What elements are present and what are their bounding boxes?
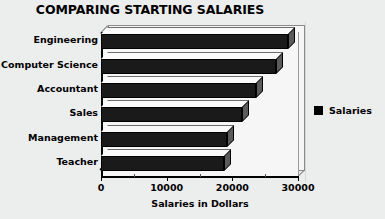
x-axis-title: Salaries in Dollars xyxy=(101,198,299,209)
x-tick-label: 20000 xyxy=(216,182,249,193)
chart-legend: Salaries xyxy=(314,105,372,116)
category-label-computer-science: Computer Science xyxy=(1,60,98,70)
bar-top-face xyxy=(101,100,249,107)
legend-color-swatch xyxy=(314,106,323,115)
bar-accountant xyxy=(101,76,263,98)
x-tick-major xyxy=(101,178,102,181)
x-tick-major xyxy=(232,178,233,181)
bar-front-face xyxy=(101,34,288,49)
bar-top-face xyxy=(101,27,295,34)
bar-chart: COMPARING STARTING SALARIES 010000200003… xyxy=(0,0,385,219)
chart-title: COMPARING STARTING SALARIES xyxy=(0,2,300,17)
bar-management xyxy=(101,125,234,147)
x-tick-minor xyxy=(200,174,201,177)
category-label-accountant: Accountant xyxy=(37,84,98,94)
legend-divider xyxy=(305,22,306,182)
bar-top-face xyxy=(101,149,231,156)
category-label-management: Management xyxy=(28,133,98,143)
legend-entry-label: Salaries xyxy=(329,105,372,116)
bar-top-face xyxy=(101,52,283,59)
x-tick-minor xyxy=(134,174,135,177)
bar-sales xyxy=(101,100,249,122)
x-tick-label: 0 xyxy=(98,182,105,193)
bar-engineering xyxy=(101,27,295,49)
category-label-engineering: Engineering xyxy=(34,35,98,45)
bar-top-face xyxy=(101,125,234,132)
x-tick-label: 30000 xyxy=(281,182,314,193)
x-tick-major xyxy=(167,178,168,181)
bar-front-face xyxy=(101,107,242,122)
category-label-sales: Sales xyxy=(69,108,98,118)
x-tick-major xyxy=(298,178,299,181)
bar-front-face xyxy=(101,83,256,98)
bar-top-face xyxy=(101,76,263,83)
bar-front-face xyxy=(101,156,224,171)
plot-area: 0100002000030000 xyxy=(101,25,299,178)
bar-computer-science xyxy=(101,52,283,74)
x-tick-label: 10000 xyxy=(150,182,183,193)
bar-front-face xyxy=(101,59,276,74)
bar-front-face xyxy=(101,132,227,147)
category-label-teacher: Teacher xyxy=(56,157,98,167)
bars-layer xyxy=(101,25,299,178)
bar-teacher xyxy=(101,149,231,171)
x-tick-minor xyxy=(265,174,266,177)
